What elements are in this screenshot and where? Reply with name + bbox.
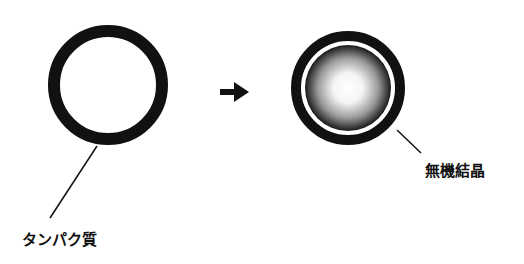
protein-shell-ring <box>54 31 162 139</box>
crystal-leader-line <box>397 130 421 153</box>
crystal-filled-ring <box>296 36 400 140</box>
right-arrow-icon <box>220 82 249 102</box>
inorganic-crystal-label: 無機結晶 <box>425 159 485 180</box>
inorganic-crystal-core <box>305 45 391 131</box>
protein-leader-line <box>50 146 97 218</box>
diagram-canvas <box>0 0 524 264</box>
protein-label: タンパク質 <box>22 228 97 249</box>
